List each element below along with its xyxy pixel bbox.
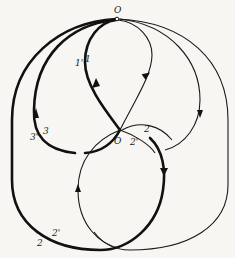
label-o-top: O	[114, 5, 122, 15]
label-3-prime: 3'	[30, 132, 38, 142]
arc-right-inner	[120, 19, 200, 150]
arrow-up-lower	[75, 184, 81, 192]
label-1-prime: 1'	[75, 58, 83, 68]
loop-1-thick	[85, 20, 120, 130]
label-2-bottom: 2	[36, 238, 43, 248]
label-o-center: O	[114, 136, 122, 146]
label-2-top: 2	[143, 124, 150, 134]
label-1: 1	[85, 54, 91, 64]
outer-loop-right	[94, 19, 228, 250]
arrow-up-1	[92, 78, 100, 88]
trajectory-diagram: O O 1 1' 2 2' 3 3' 2' 2	[0, 0, 235, 258]
point-o-top	[115, 17, 119, 21]
label-3: 3	[43, 126, 49, 136]
arrow-down-lower	[160, 168, 168, 176]
label-2-prime-center: 2'	[129, 137, 138, 147]
bottom-loop-left	[78, 130, 120, 248]
label-2-prime-bottom: 2'	[51, 228, 60, 238]
